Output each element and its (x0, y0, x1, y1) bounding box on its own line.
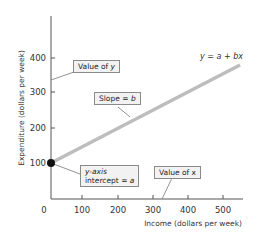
y-tick-label: 100 (30, 158, 46, 168)
equation-label: y = a + bx (200, 52, 243, 61)
x-tick-label: 500 (215, 205, 231, 215)
value-of-x-leader (162, 178, 172, 199)
value-of-y-label: Value of y (73, 60, 120, 73)
x-tick-label: 400 (180, 205, 196, 215)
x-tick-label: 100 (74, 205, 90, 215)
slope-var: b (131, 94, 136, 103)
intercept-point (47, 159, 55, 167)
intercept-line2: intercept = (85, 176, 130, 185)
y-axis-title: Expenditure (dollars per week) (17, 50, 26, 166)
y-ticks (51, 58, 55, 163)
chart-canvas: 400 300 200 100 0 100 200 300 400 500 In… (0, 0, 258, 236)
y-tick-label: 300 (30, 87, 46, 97)
value-of-y-var: y (111, 62, 115, 71)
value-of-x-text: Value of x (159, 168, 196, 177)
value-of-y-leader (51, 72, 74, 80)
x-axis-title: Income (dollars per week) (144, 219, 242, 228)
intercept-line1: y-axis (85, 167, 134, 176)
regression-line (51, 65, 240, 163)
slope-label: Slope = b (94, 92, 141, 105)
slope-leader (118, 107, 130, 117)
x-tick-label: 200 (110, 205, 126, 215)
value-of-x-label: Value of x (154, 166, 201, 179)
intercept-label: y-axis intercept = a (80, 165, 139, 187)
slope-text: Slope = (99, 94, 131, 103)
intercept-var: a (130, 176, 135, 185)
x-ticks (82, 195, 223, 199)
value-of-y-text: Value of (78, 62, 111, 71)
x-tick-label: 0 (41, 205, 46, 215)
y-tick-label: 200 (30, 123, 46, 133)
intercept-leader (51, 163, 80, 174)
x-tick-label: 300 (145, 205, 161, 215)
y-tick-label: 400 (30, 53, 46, 63)
